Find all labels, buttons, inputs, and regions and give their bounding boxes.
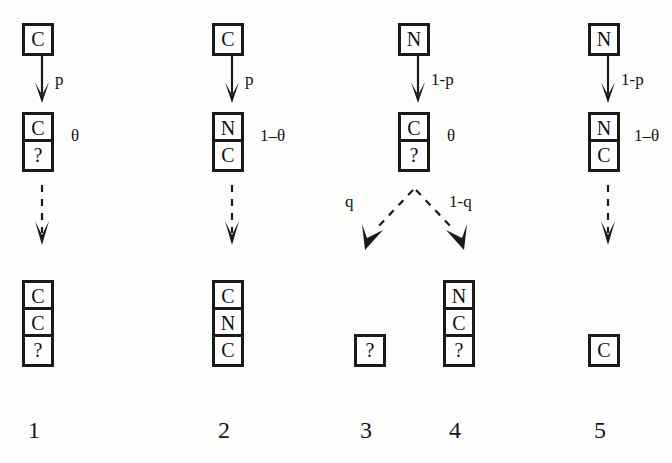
column-3-branch-left-label: q	[345, 193, 354, 210]
column-5-first-arrow-label: 1-p	[621, 71, 644, 88]
column-2-root-box: C	[212, 23, 244, 56]
column-3-outcome-box: ?	[354, 334, 386, 367]
column-1-root-box: C	[22, 23, 54, 56]
column-1-outcome-box: C C ?	[22, 280, 54, 367]
column-2-dashed-arrow	[220, 185, 244, 250]
column-5-middle-label: 1–θ	[634, 127, 659, 144]
cell: C	[25, 26, 51, 53]
column-4-number: 4	[449, 418, 461, 442]
column-3-number: 3	[360, 418, 372, 442]
cell: N	[446, 283, 472, 310]
column-4-outcome-box: N C ?	[443, 280, 475, 367]
cell: C	[25, 283, 51, 310]
cell: C	[591, 337, 617, 364]
column-5-solid-arrow	[596, 56, 620, 106]
column-1-dashed-arrow	[30, 185, 54, 250]
cell: C	[401, 115, 427, 142]
cell: C	[215, 142, 241, 169]
cell: N	[591, 115, 617, 142]
diagram-canvas: C p C ? θ C C ? 1 C p N C 1–θ C N C	[0, 0, 672, 463]
cell: N	[215, 115, 241, 142]
column-5-root-box: N	[588, 23, 620, 56]
column-3-root-box: N	[398, 23, 430, 56]
column-3-middle-label: θ	[447, 127, 455, 144]
column-3-middle-box: C ?	[398, 112, 430, 172]
cell: ?	[25, 337, 51, 364]
cell: C	[591, 142, 617, 169]
column-5-number: 5	[594, 418, 606, 442]
column-5-dashed-arrow	[596, 185, 620, 250]
column-1-solid-arrow	[30, 56, 54, 106]
column-1-middle-label: θ	[71, 127, 79, 144]
cell: C	[446, 310, 472, 337]
cell: ?	[401, 142, 427, 169]
column-2-number: 2	[218, 418, 230, 442]
cell: N	[215, 310, 241, 337]
column-5-outcome-box: C	[588, 334, 620, 367]
cell: ?	[25, 142, 51, 169]
cell: N	[591, 26, 617, 53]
cell: C	[215, 283, 241, 310]
column-2-middle-label: 1–θ	[260, 127, 285, 144]
cell: C	[215, 337, 241, 364]
cell: N	[401, 26, 427, 53]
cell: ?	[446, 337, 472, 364]
column-3-branch-right-label: 1-q	[449, 193, 472, 210]
column-1-middle-box: C ?	[22, 112, 54, 172]
column-3-first-arrow-label: 1-p	[431, 71, 454, 88]
column-2-solid-arrow	[220, 56, 244, 106]
column-5-middle-box: N C	[588, 112, 620, 172]
cell: C	[25, 115, 51, 142]
column-1-number: 1	[28, 418, 40, 442]
column-3-solid-arrow	[406, 56, 430, 106]
cell: ?	[357, 337, 383, 364]
column-2-middle-box: N C	[212, 112, 244, 172]
column-1-first-arrow-label: p	[55, 71, 64, 88]
column-2-first-arrow-label: p	[245, 71, 254, 88]
column-2-outcome-box: C N C	[212, 280, 244, 367]
cell: C	[215, 26, 241, 53]
cell: C	[25, 310, 51, 337]
